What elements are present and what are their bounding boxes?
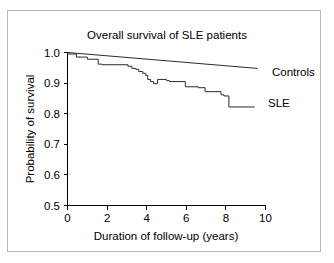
legend-controls: Controls: [272, 66, 315, 78]
legend-sle: SLE: [268, 97, 290, 109]
y-tick-label-5: 1.0: [44, 47, 60, 59]
x-tick-label-4: 8: [223, 212, 229, 224]
x-axis-tick-labels: 0 2 4 6 8 10: [64, 212, 272, 224]
figure-container: Overall survival of SLE patients 0.5 0.6…: [0, 0, 334, 263]
series-line-sle: [68, 54, 255, 107]
legend-label-controls: Controls: [272, 66, 315, 78]
x-tick-label-3: 6: [183, 212, 189, 224]
x-tick-label-1: 2: [104, 212, 110, 224]
legend-label-sle: SLE: [268, 97, 290, 109]
y-tick-label-3: 0.8: [44, 108, 60, 120]
series-line-controls: [68, 53, 258, 69]
y-tick-label-0: 0.5: [44, 200, 60, 212]
survival-chart: Overall survival of SLE patients 0.5 0.6…: [0, 0, 334, 263]
y-tick-label-2: 0.7: [44, 138, 60, 150]
y-axis-ticks: [64, 53, 68, 206]
chart-title: Overall survival of SLE patients: [87, 29, 247, 41]
y-tick-label-4: 0.9: [44, 77, 60, 89]
y-tick-label-1: 0.6: [44, 169, 60, 181]
y-axis-title: Probability of survival: [24, 75, 36, 184]
x-tick-label-2: 4: [143, 212, 150, 224]
x-axis-ticks: [68, 206, 266, 210]
x-tick-label-0: 0: [64, 212, 70, 224]
y-axis-tick-labels: 0.5 0.6 0.7 0.8 0.9 1.0: [44, 47, 60, 212]
x-tick-label-5: 10: [259, 212, 272, 224]
x-axis-title: Duration of follow-up (years): [94, 230, 239, 242]
